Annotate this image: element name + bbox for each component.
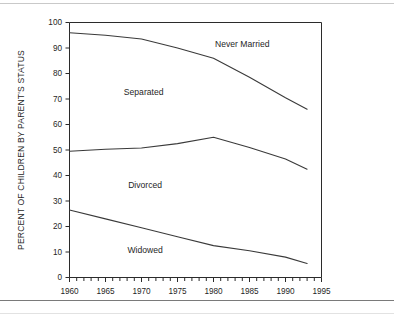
x-tick-label: 1965 [96, 287, 115, 296]
x-tick-label: 1960 [60, 287, 79, 296]
y-tick-label: 90 [53, 44, 63, 53]
y-axis-tick-labels: 0 10 20 30 40 50 60 70 80 90 100 [48, 18, 62, 282]
chart-figure: 0 10 20 30 40 50 60 70 80 90 100 [0, 0, 394, 316]
y-tick-label: 100 [48, 18, 62, 27]
x-tick-label: 1980 [204, 287, 223, 296]
series-line-widowed [70, 210, 308, 264]
x-axis-tick-labels: 1960 1965 1970 1975 1980 1985 1990 1995 [60, 287, 331, 296]
x-tick-label: 1995 [312, 287, 331, 296]
y-axis-ticks [66, 23, 70, 278]
series-line-separated [70, 137, 308, 169]
x-axis-minor-ticks [70, 278, 322, 283]
x-tick-label: 1975 [168, 287, 187, 296]
series-label-widowed: Widowed [127, 245, 163, 255]
series-line-never-married [70, 33, 308, 110]
x-tick-label: 1970 [132, 287, 151, 296]
y-axis-title: PERCENT OF CHILDREN BY PARENT'S STATUS [16, 50, 26, 250]
y-tick-label: 20 [53, 222, 63, 231]
series-label-never-married: Never Married [215, 39, 270, 49]
y-tick-label: 30 [53, 197, 63, 206]
series-label-divorced: Divorced [128, 180, 162, 190]
y-tick-label: 80 [53, 69, 63, 78]
series-label-separated: Separated [124, 87, 164, 97]
y-tick-label: 50 [53, 146, 63, 155]
y-tick-label: 40 [53, 171, 63, 180]
y-tick-label: 70 [53, 95, 63, 104]
y-tick-label: 60 [53, 120, 63, 129]
y-tick-label: 0 [57, 273, 62, 282]
y-tick-label: 10 [53, 248, 63, 257]
line-chart-svg: 0 10 20 30 40 50 60 70 80 90 100 [0, 0, 394, 316]
x-tick-label: 1990 [276, 287, 295, 296]
x-tick-label: 1985 [240, 287, 259, 296]
